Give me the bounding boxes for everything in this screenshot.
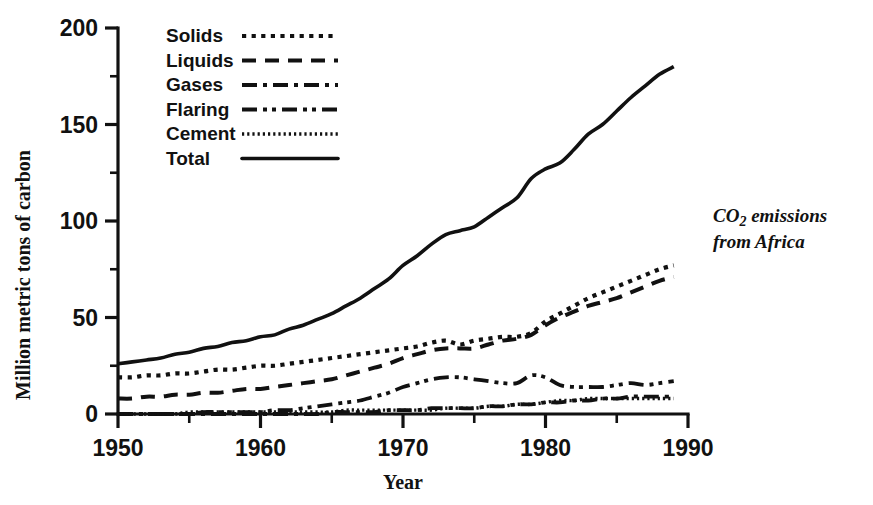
y-axis-label: Million metric tons of carbon (12, 150, 34, 400)
legend-label-cement: Cement (166, 123, 236, 144)
annotation-line1-suffix: emissions (746, 205, 827, 226)
x-tick-label: 1950 (92, 435, 143, 461)
x-tick-label: 1970 (377, 435, 428, 461)
legend-label-total: Total (166, 148, 210, 169)
y-tick-label: 0 (85, 401, 98, 427)
x-tick-label: 1980 (520, 435, 571, 461)
y-tick-label: 150 (60, 112, 98, 138)
y-tick-label: 50 (72, 305, 98, 331)
legend-label-liquids: Liquids (166, 50, 234, 71)
annotation-line1-prefix: CO (713, 205, 740, 226)
svg-text:CO2 emissions: CO2 emissions (713, 205, 827, 229)
chart-background (0, 0, 873, 505)
annotation-line2: from Africa (713, 231, 805, 252)
y-tick-label: 200 (60, 15, 98, 41)
x-axis-label: Year (383, 471, 423, 493)
y-tick-label: 100 (60, 208, 98, 234)
x-tick-label: 1960 (235, 435, 286, 461)
co2-emissions-chart: Million metric tons of carbon Year 05010… (0, 0, 873, 505)
legend-label-gases: Gases (166, 74, 223, 95)
legend-label-solids: Solids (166, 25, 223, 46)
x-tick-label: 1990 (662, 435, 713, 461)
annotation-line1-sub: 2 (738, 214, 746, 229)
legend-label-flaring: Flaring (166, 99, 229, 120)
